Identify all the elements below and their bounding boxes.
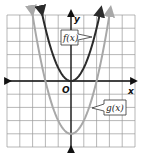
- x-axis-label: x: [127, 86, 135, 96]
- g-label-callout: g(x): [92, 100, 126, 115]
- f-label: f(x): [62, 33, 79, 43]
- g-label: g(x): [106, 103, 124, 113]
- coordinate-plane: y x O f(x) g(x): [0, 0, 142, 157]
- f-label-callout: f(x): [61, 30, 92, 45]
- y-axis-label: y: [74, 14, 81, 24]
- origin-label: O: [62, 85, 70, 95]
